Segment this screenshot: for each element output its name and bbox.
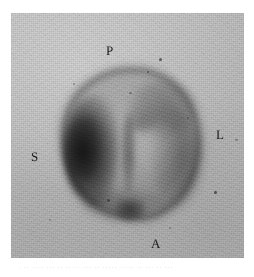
- orientation-label-lateral: L: [216, 128, 224, 141]
- bleed-through-text: · ·· ···· ··· ·· ····· ··· ·· ····· ····…: [18, 262, 233, 273]
- orientation-label-posterior: P: [106, 44, 113, 57]
- film-grain-layer-2: [11, 13, 244, 258]
- scan-image-panel: [11, 13, 244, 258]
- orientation-label-superior: S: [31, 150, 38, 163]
- orientation-label-anterior: A: [151, 237, 160, 250]
- figure-root: P S L A · ·· ···· ··· ·· ····· ··· ·· ··…: [0, 0, 254, 277]
